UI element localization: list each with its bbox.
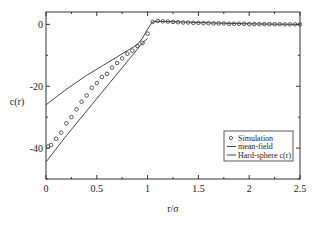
y-tick-label: -20 xyxy=(30,81,43,92)
simulation-point xyxy=(59,131,63,135)
simulation-point xyxy=(115,61,119,65)
y-tick-label: -40 xyxy=(30,143,43,154)
x-tick-label: 1.5 xyxy=(192,183,205,194)
simulation-point xyxy=(100,75,104,79)
simulation-point xyxy=(125,52,129,56)
x-tick-label: 2 xyxy=(247,183,252,194)
mean-field-line xyxy=(46,21,300,105)
x-tick-label: 2.5 xyxy=(294,183,307,194)
simulation-point xyxy=(54,137,58,141)
simulation-point xyxy=(146,32,150,36)
y-tick-label: 0 xyxy=(38,19,43,30)
x-axis-label: r/σ xyxy=(167,203,179,214)
simulation-point xyxy=(85,94,89,98)
simulation-point xyxy=(75,108,79,112)
simulation-point xyxy=(65,122,69,126)
x-tick-label: 0.5 xyxy=(91,183,104,194)
chart: 00.511.522.50-20-40 r/σ c(r) Simulationm… xyxy=(0,0,322,228)
simulation-point xyxy=(90,86,94,90)
ticks: 00.511.522.50-20-40 xyxy=(30,12,307,194)
legend: Simulationmean-fieldHard-sphere c(r) xyxy=(224,131,293,161)
x-tick-label: 1 xyxy=(145,183,150,194)
simulation-point xyxy=(80,100,84,104)
y-axis-label: c(r) xyxy=(10,96,24,108)
simulation-point xyxy=(212,22,216,26)
simulation-point xyxy=(49,143,53,147)
hard-sphere-c-r-line xyxy=(46,38,148,162)
legend-label-hard-sphere-c-r: Hard-sphere c(r) xyxy=(238,151,291,160)
simulation-point xyxy=(131,49,135,53)
simulation-point xyxy=(105,72,109,76)
simulation-point xyxy=(110,66,114,70)
simulation-point xyxy=(95,81,99,85)
x-tick-label: 0 xyxy=(44,183,49,194)
simulation-point xyxy=(120,57,124,61)
simulation-point xyxy=(70,115,74,119)
